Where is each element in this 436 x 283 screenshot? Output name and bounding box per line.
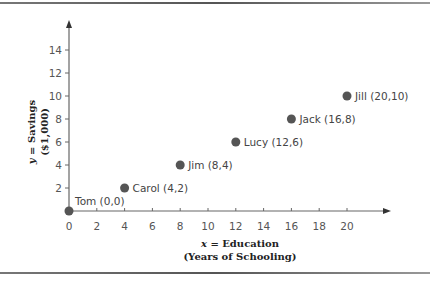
y-tick-label: 8 <box>55 113 62 125</box>
point-label: Lucy (12,6) <box>244 136 303 148</box>
x-tick-label: 0 <box>66 220 73 232</box>
data-point-lucy: Lucy (12,6) <box>231 136 303 148</box>
point-marker-icon <box>65 207 74 216</box>
y-tick-label: 4 <box>55 159 62 171</box>
y-axis-title: y = Savings($1,000) <box>26 99 51 165</box>
point-label: Carol (4,2) <box>133 182 188 194</box>
axis-titles: x = Education(Years of Schooling)y = Sav… <box>26 99 297 262</box>
x-axis-title: x = Education(Years of Schooling) <box>183 238 296 262</box>
x-tick-label: 16 <box>285 220 299 232</box>
x-axis-arrow-icon <box>383 208 391 214</box>
point-marker-icon <box>120 184 129 193</box>
data-point-jill: Jill (20,10) <box>343 90 409 102</box>
point-label: Jack (16,8) <box>298 113 355 125</box>
x-tick-label: 4 <box>121 220 128 232</box>
x-tick-label: 18 <box>313 220 326 232</box>
y-tick-label: 2 <box>55 182 62 194</box>
point-label: Tom (0,0) <box>74 195 125 207</box>
point-label: Jim (8,4) <box>187 159 232 171</box>
data-point-tom: Tom (0,0) <box>65 195 125 216</box>
data-point-jim: Jim (8,4) <box>176 159 233 171</box>
data-point-carol: Carol (4,2) <box>120 182 188 194</box>
x-tick-label: 10 <box>201 220 214 232</box>
point-marker-icon <box>287 115 296 124</box>
x-tick-label: 14 <box>257 220 271 232</box>
x-tick-label: 12 <box>229 220 242 232</box>
x-tick-label: 2 <box>93 220 100 232</box>
point-marker-icon <box>176 161 185 170</box>
y-tick-label: 12 <box>49 67 62 79</box>
y-tick-label: 10 <box>49 90 62 102</box>
x-tick-label: 6 <box>149 220 156 232</box>
y-tick-label: 14 <box>49 44 63 56</box>
data-points: Tom (0,0)Carol (4,2)Jim (8,4)Lucy (12,6)… <box>65 90 409 216</box>
x-tick-label: 20 <box>340 220 353 232</box>
y-tick-label: 6 <box>55 136 62 148</box>
y-axis-arrow-icon <box>66 20 72 28</box>
point-marker-icon <box>231 138 240 147</box>
x-tick-label: 8 <box>177 220 184 232</box>
point-label: Jill (20,10) <box>354 90 408 102</box>
data-point-jack: Jack (16,8) <box>287 113 356 125</box>
scatter-chart: 024681012141618202468101214 Tom (0,0)Car… <box>0 0 436 283</box>
point-marker-icon <box>343 92 352 101</box>
